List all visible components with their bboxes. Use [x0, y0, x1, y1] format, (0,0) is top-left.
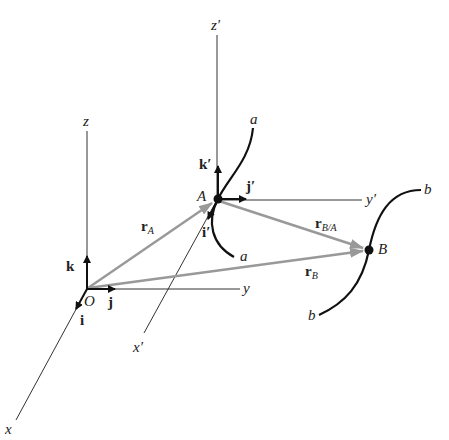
vector-rA — [88, 203, 212, 288]
label-point-A: A — [197, 189, 206, 204]
label-point-B: B — [378, 242, 387, 257]
label-j-prime: j′ — [246, 179, 255, 194]
label-y: y — [243, 281, 250, 296]
label-path-b-bottom: b — [308, 308, 316, 323]
label-k: k — [66, 259, 74, 274]
label-vector-rBA: rB/A — [315, 216, 337, 233]
label-z: z — [83, 114, 89, 129]
rA-sub: A — [148, 225, 154, 236]
relative-motion-diagram: z y x z′ y′ x′ O A B k j i k′ j′ i′ a a … — [0, 0, 449, 440]
fixed-axes — [16, 131, 240, 420]
label-i: i — [80, 313, 84, 328]
rA-main: r — [141, 218, 148, 234]
diagram-graphics — [0, 0, 449, 440]
point-B-dot — [365, 246, 374, 255]
label-x: x — [5, 422, 12, 437]
vector-rB — [88, 251, 363, 288]
label-i-prime: i′ — [202, 225, 210, 240]
label-x-prime: x′ — [133, 340, 143, 355]
rBA-main: r — [315, 215, 322, 231]
label-k-prime: k′ — [199, 157, 212, 172]
label-j: j — [108, 295, 113, 310]
point-A-dot — [214, 195, 223, 204]
label-vector-rA: rA — [141, 219, 154, 236]
vector-rBA — [219, 201, 363, 248]
rB-main: r — [305, 263, 312, 279]
rBA-sub: B/A — [322, 222, 337, 233]
label-path-a-bottom: a — [240, 249, 248, 264]
rB-sub: B — [312, 270, 318, 281]
label-path-a-top: a — [250, 112, 258, 127]
label-vector-rB: rB — [305, 264, 318, 281]
label-y-prime: y′ — [366, 192, 376, 207]
label-path-b-top: b — [424, 182, 432, 197]
label-z-prime: z′ — [211, 18, 220, 33]
x-prime-axis — [144, 200, 217, 333]
label-origin-O: O — [84, 294, 95, 309]
